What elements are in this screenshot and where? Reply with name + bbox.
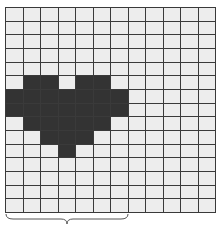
grid-cell [199, 158, 217, 172]
grid-cell [6, 145, 24, 159]
grid-cell [59, 8, 77, 22]
grid-cell [94, 158, 112, 172]
grid-cell [76, 8, 94, 22]
grid-cell [129, 131, 147, 145]
grid-cell [181, 199, 199, 213]
grid-cell [164, 186, 182, 200]
grid-cell [111, 8, 129, 22]
grid-cell [6, 186, 24, 200]
grid-cell-filled [41, 90, 59, 104]
grid-cell [164, 22, 182, 36]
grid-cell [24, 145, 42, 159]
grid-cell-filled [6, 90, 24, 104]
grid-cell [76, 49, 94, 63]
grid-cell [199, 172, 217, 186]
grid-cell [199, 117, 217, 131]
grid-cell [181, 117, 199, 131]
grid-cell [164, 8, 182, 22]
grid-cell [164, 131, 182, 145]
grid-cell [111, 145, 129, 159]
grid-cell-filled [41, 76, 59, 90]
grid-cell [129, 158, 147, 172]
grid-cell [146, 131, 164, 145]
grid-cell [41, 8, 59, 22]
grid-cell [111, 186, 129, 200]
grid-cell [24, 158, 42, 172]
grid-cell-filled [76, 90, 94, 104]
grid-cell [199, 104, 217, 118]
grid-cell [164, 35, 182, 49]
grid-cell [146, 104, 164, 118]
grid-cell [129, 76, 147, 90]
grid-cell [41, 199, 59, 213]
grid-cell [199, 22, 217, 36]
grid-cell [129, 117, 147, 131]
grid-cell [94, 131, 112, 145]
grid-cell [146, 172, 164, 186]
grid-cell [6, 172, 24, 186]
grid-cell [164, 172, 182, 186]
grid-cell [199, 131, 217, 145]
grid-cell [59, 35, 77, 49]
grid-cell-filled [6, 104, 24, 118]
grid-cell [41, 49, 59, 63]
grid-cell [164, 104, 182, 118]
grid-cell-filled [41, 131, 59, 145]
grid-cell [6, 49, 24, 63]
grid-cell [146, 90, 164, 104]
grid-cell [94, 49, 112, 63]
grid-cell [111, 63, 129, 77]
grid-cell-filled [76, 117, 94, 131]
grid-cell-filled [24, 76, 42, 90]
grid-cell [94, 35, 112, 49]
grid-cell [59, 199, 77, 213]
grid-cell [41, 145, 59, 159]
grid-cell [199, 186, 217, 200]
grid-cell [199, 35, 217, 49]
curly-brace-icon [5, 213, 129, 225]
grid-cell [164, 49, 182, 63]
grid-cell [129, 63, 147, 77]
grid-cell [6, 131, 24, 145]
grid-cell [41, 186, 59, 200]
grid-cell [181, 49, 199, 63]
grid-cell [146, 76, 164, 90]
grid-cell [164, 90, 182, 104]
grid-cell [59, 158, 77, 172]
grid-cell [181, 22, 199, 36]
grid-cell [6, 8, 24, 22]
grid-cell [59, 172, 77, 186]
grid-cell [181, 145, 199, 159]
grid-cell [76, 22, 94, 36]
grid-cell [76, 158, 94, 172]
grid-cell-filled [94, 104, 112, 118]
grid-cell [76, 63, 94, 77]
grid-cell [181, 8, 199, 22]
grid-cell-filled [59, 145, 77, 159]
grid-cell [111, 117, 129, 131]
grid-cell [59, 76, 77, 90]
grid-cell-filled [59, 104, 77, 118]
grid-cell [24, 199, 42, 213]
grid-cell-filled [76, 104, 94, 118]
grid-cell [24, 49, 42, 63]
grid-cell [181, 63, 199, 77]
grid-cell [24, 186, 42, 200]
grid-cell [6, 117, 24, 131]
grid-cell [59, 22, 77, 36]
grid-cell-filled [111, 104, 129, 118]
grid-cell [94, 186, 112, 200]
grid-cell [6, 158, 24, 172]
grid-cell [76, 35, 94, 49]
grid-cell-filled [59, 90, 77, 104]
grid-cell [24, 172, 42, 186]
grid-cell [164, 158, 182, 172]
grid-cell [181, 158, 199, 172]
grid-cell [41, 35, 59, 49]
grid-cell [76, 172, 94, 186]
grid-cell [181, 131, 199, 145]
grid-cell [6, 35, 24, 49]
grid-cell [181, 186, 199, 200]
grid-cell [111, 131, 129, 145]
grid-cell [129, 186, 147, 200]
